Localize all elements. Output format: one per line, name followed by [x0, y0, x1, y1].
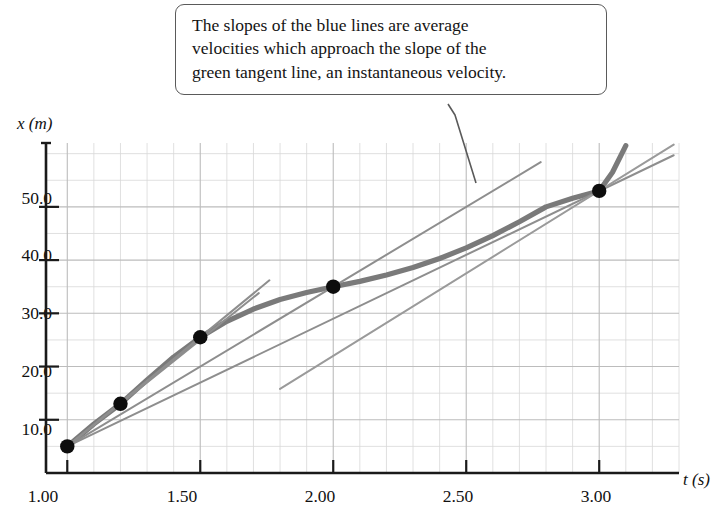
callout-pointer-tail — [448, 104, 476, 183]
plot-area — [0, 0, 712, 516]
data-point-4 — [592, 184, 606, 198]
data-point-1 — [113, 397, 127, 411]
line-5 — [280, 145, 674, 389]
position-curve — [67, 146, 626, 447]
data-point-3 — [326, 280, 340, 294]
data-point-2 — [193, 330, 207, 344]
line-3 — [67, 162, 540, 446]
line-4 — [67, 155, 673, 446]
data-point-0 — [60, 439, 74, 453]
series-layer — [67, 145, 673, 447]
position-time-figure: The slopes of the blue lines are average… — [0, 0, 712, 516]
